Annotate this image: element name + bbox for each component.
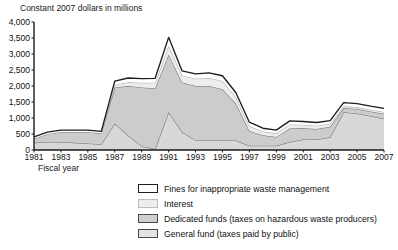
legend-label: General fund (taxes paid by public) [164,229,299,239]
legend-swatch-icon [138,184,158,193]
plot-area: 4,0003,5003,0002,5002,0001,5001,00050001… [0,0,391,180]
legend-label: Fines for inappropriate waste management [164,184,329,194]
legend-item[interactable]: Dedicated funds (taxes on hazardous wast… [138,212,377,225]
legend-item[interactable]: General fund (taxes paid by public) [138,227,377,240]
y-tick-label: 2,500 [0,66,30,75]
legend-swatch-icon [138,199,158,208]
legend-item[interactable]: Interest [138,197,377,210]
y-tick-label: 1,000 [0,114,30,123]
y-tick-label: 500 [0,130,30,139]
x-tick-label: 2007 [364,153,398,162]
y-tick-label: 3,500 [0,34,30,43]
legend-swatch-icon [138,214,158,223]
legend-item[interactable]: Fines for inappropriate waste management [138,182,377,195]
y-tick-label: 2,000 [0,82,30,91]
legend-swatch-icon [138,229,158,238]
x-axis-title: Fiscal year [38,163,79,174]
legend-label: Dedicated funds (taxes on hazardous wast… [164,214,377,224]
y-tick-label: 4,000 [0,18,30,27]
legend-label: Interest [164,199,193,209]
y-tick-label: 1,500 [0,98,30,107]
chart-legend: Fines for inappropriate waste management… [138,182,377,240]
y-tick-label: 3,000 [0,50,30,59]
